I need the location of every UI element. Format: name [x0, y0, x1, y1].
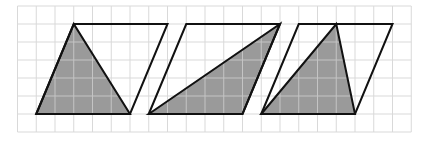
- shaded-triangles: [36, 24, 355, 114]
- parallelogram-figure: [0, 0, 430, 144]
